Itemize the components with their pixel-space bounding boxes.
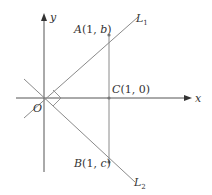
y-axis-label: y bbox=[49, 11, 57, 24]
line-l1-label: L1 bbox=[135, 12, 148, 27]
point-c-label: C(1, 0) bbox=[112, 83, 150, 96]
origin-label: O bbox=[33, 102, 42, 115]
line-l2-label: L2 bbox=[133, 176, 146, 191]
point-b-label: B(1, c) bbox=[73, 157, 111, 170]
x-axis-label: x bbox=[195, 92, 202, 105]
diagram-canvas: x y O L1 L2 A(1, b) C(1, 0) B(1, c) bbox=[0, 0, 212, 195]
y-axis-arrow-icon bbox=[41, 13, 47, 21]
point-a-label: A(1, b) bbox=[73, 23, 112, 36]
x-axis-arrow-icon bbox=[184, 95, 192, 101]
y-axis bbox=[41, 13, 47, 172]
point-c bbox=[107, 96, 110, 99]
